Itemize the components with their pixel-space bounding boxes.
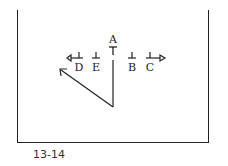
pass-arrow [60,69,113,107]
play-diagram: A D E B C [0,0,228,166]
player-a-marker [109,47,117,55]
player-c-label: C [146,61,154,74]
figure-caption: 13-14 [33,148,65,161]
player-e-label: E [92,61,100,74]
player-e-marker [92,52,100,58]
player-a-label: A [108,33,118,46]
right-arrow-icon [154,55,165,61]
player-b-label: B [128,61,136,74]
player-d-label: D [75,61,84,74]
player-c-marker [146,52,154,58]
player-b-marker [128,52,136,58]
player-d-marker [75,52,83,58]
